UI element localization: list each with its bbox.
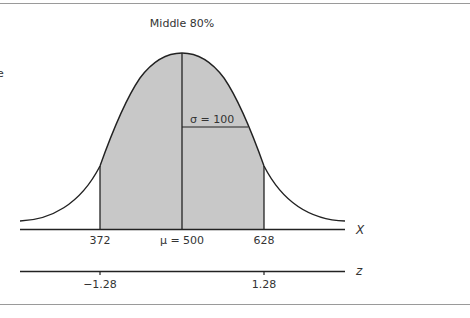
x-tick-628: 628 [254, 234, 275, 247]
x-tick-mean: μ = 500 [160, 234, 204, 247]
x-axis-name: X [355, 223, 365, 237]
figure-title: Middle 80% [150, 17, 214, 30]
x-tick-372: 372 [90, 234, 111, 247]
z-tick-neg: −1.28 [83, 278, 117, 291]
normal-distribution-diagram: σ = 100 Middle 80% e X 372 μ = 500 628 z… [0, 0, 470, 318]
z-axis-name: z [355, 264, 363, 278]
z-tick-pos: 1.28 [252, 278, 277, 291]
sigma-label: σ = 100 [190, 113, 234, 126]
left-text-fragment: e [0, 67, 4, 80]
